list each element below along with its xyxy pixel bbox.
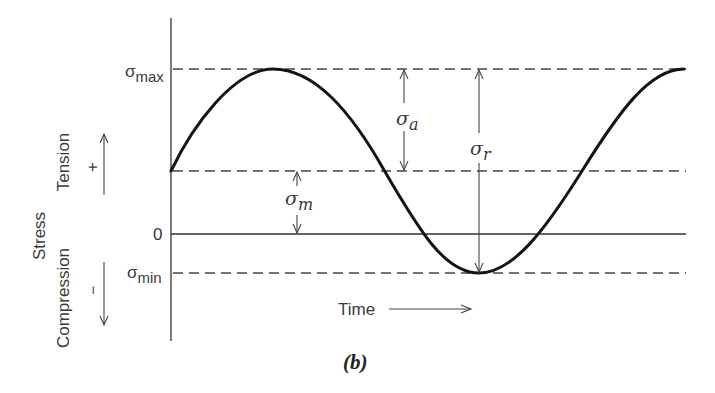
sigma-min-label: σmin <box>127 263 162 286</box>
sigma-m-dimension: σm <box>285 172 313 233</box>
compression-label: Compression <box>54 248 73 348</box>
minus-sign: − <box>84 285 101 294</box>
figure-caption: (b) <box>343 350 368 374</box>
sigma-r-label: σr <box>470 137 492 164</box>
time-label: Time <box>338 300 375 319</box>
sigma-m-label: σm <box>285 187 313 214</box>
plus-sign: + <box>83 162 102 172</box>
zero-label: 0 <box>153 225 162 244</box>
sigma-max-label: σmax <box>125 62 164 85</box>
sigma-a-label: σa <box>396 107 419 134</box>
fluctuating-stress-diagram: σmax σmin 0 σa σr σm Stress Ten <box>0 0 715 393</box>
stress-axis-label: Stress <box>30 212 49 260</box>
tension-label: Tension <box>54 133 73 192</box>
sigma-a-dimension: σa <box>396 70 419 170</box>
